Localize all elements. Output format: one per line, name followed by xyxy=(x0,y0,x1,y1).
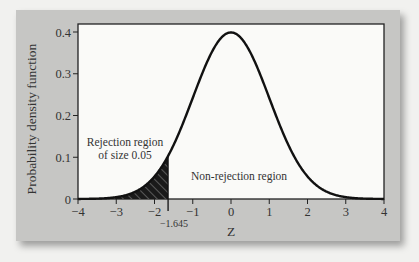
y-tick-label: 0.3 xyxy=(55,67,71,81)
x-axis-ticks: −4−3−2−101234 xyxy=(71,199,388,219)
rejection-region-label-line2: of size 0.05 xyxy=(98,149,152,161)
y-tick-label: 0 xyxy=(65,193,71,207)
y-tick-label: 0.4 xyxy=(55,26,71,40)
x-tick-label: 2 xyxy=(304,205,310,219)
x-tick-label: 4 xyxy=(381,205,388,219)
critical-value-label: −1.645 xyxy=(160,218,188,229)
y-tick-label: 0.1 xyxy=(55,151,71,165)
y-axis-label: Probability density function xyxy=(24,43,39,194)
y-tick-label: 0.2 xyxy=(55,109,71,123)
x-tick-label: 1 xyxy=(266,205,272,219)
rejection-region-label-line1: Rejection region xyxy=(87,136,164,149)
y-axis-ticks: 00.10.20.30.4 xyxy=(55,26,78,207)
x-tick-label: −1 xyxy=(186,205,199,219)
x-tick-label: 0 xyxy=(228,205,234,219)
x-tick-label: 3 xyxy=(343,205,349,219)
x-tick-label: −4 xyxy=(71,205,85,219)
x-tick-label: −3 xyxy=(110,205,123,219)
x-tick-label: −2 xyxy=(148,205,161,219)
x-axis-label: Z xyxy=(227,224,235,239)
non-rejection-region-label: Non-rejection region xyxy=(191,170,287,183)
chart-svg: −4−3−2−101234 00.10.20.30.4 Probability … xyxy=(0,0,419,262)
